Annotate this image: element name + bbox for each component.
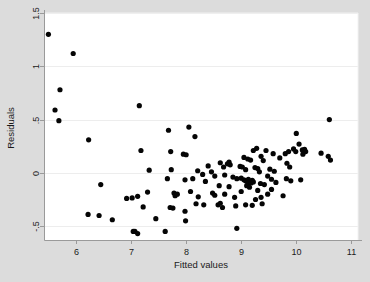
data-point <box>248 157 253 162</box>
data-point <box>153 216 158 221</box>
data-point <box>188 189 193 194</box>
data-point <box>135 231 140 236</box>
data-point <box>222 192 227 197</box>
data-point <box>300 152 305 157</box>
data-point <box>182 177 187 182</box>
data-point <box>169 167 174 172</box>
data-point <box>86 137 91 142</box>
x-tick-label-3: 9 <box>239 247 244 257</box>
data-point <box>192 134 197 139</box>
x-tick-label-2: 8 <box>184 247 189 257</box>
data-point <box>46 32 51 37</box>
y-tick-label-3: 0 <box>31 171 41 176</box>
x-axis-title: Fitted values <box>174 259 228 270</box>
data-point <box>203 179 208 184</box>
data-point <box>137 103 142 108</box>
data-point <box>175 192 180 197</box>
data-point <box>247 185 252 190</box>
data-point <box>145 189 150 194</box>
data-point <box>273 180 278 185</box>
data-point <box>182 209 187 214</box>
data-point <box>255 188 260 193</box>
data-point <box>234 176 239 181</box>
data-point <box>318 151 323 156</box>
data-point <box>253 197 258 202</box>
data-point <box>226 184 231 189</box>
data-point <box>327 117 332 122</box>
y-tick-label-2: .5 <box>31 117 41 125</box>
data-point <box>251 148 256 153</box>
data-point <box>141 204 146 209</box>
data-point <box>163 229 168 234</box>
data-point <box>57 87 62 92</box>
data-point <box>233 203 238 208</box>
data-point <box>262 182 267 187</box>
data-point <box>222 172 227 177</box>
data-point <box>220 205 225 210</box>
data-point <box>193 201 198 206</box>
data-point <box>135 194 140 199</box>
data-point <box>269 177 274 182</box>
y-axis-title: Residuals <box>5 107 16 149</box>
y-tick-label-4: -.5 <box>31 221 41 232</box>
data-point <box>184 152 189 157</box>
data-point <box>232 195 237 200</box>
data-point <box>243 167 248 172</box>
data-point <box>218 160 223 165</box>
data-point <box>272 169 277 174</box>
scatter-plot-canvas: 67891011 1.51.50-.5 Fitted values Residu… <box>0 0 370 282</box>
data-point <box>239 189 244 194</box>
data-point <box>209 169 214 174</box>
data-point <box>277 155 282 160</box>
data-point <box>138 148 143 153</box>
data-point <box>165 176 170 181</box>
data-point <box>195 168 200 173</box>
residual-scatter-plot-figure: 67891011 1.51.50-.5 Fitted values Residu… <box>0 0 370 282</box>
data-point <box>110 217 115 222</box>
x-tick-label-0: 6 <box>74 247 79 257</box>
data-point <box>183 218 188 223</box>
data-point <box>186 124 191 129</box>
data-point <box>217 183 222 188</box>
data-point <box>243 202 248 207</box>
data-point <box>147 168 152 173</box>
data-point <box>280 193 285 198</box>
data-point <box>98 182 103 187</box>
data-point <box>265 192 270 197</box>
x-tick-label-4: 10 <box>291 247 301 257</box>
data-point <box>267 167 272 172</box>
data-point <box>296 141 301 146</box>
data-point <box>271 151 276 156</box>
data-point <box>124 196 129 201</box>
data-point <box>212 173 217 178</box>
data-point <box>257 169 262 174</box>
data-point <box>294 131 299 136</box>
data-point <box>52 107 57 112</box>
data-point <box>228 162 233 167</box>
data-point <box>200 172 205 177</box>
data-point <box>196 194 201 199</box>
data-point <box>170 205 175 210</box>
data-point <box>260 201 265 206</box>
data-point <box>288 178 293 183</box>
data-point <box>287 164 292 169</box>
x-tick-label-1: 7 <box>129 247 134 257</box>
data-point <box>96 213 101 218</box>
data-point <box>261 158 266 163</box>
data-point <box>212 193 217 198</box>
data-point <box>190 176 195 181</box>
data-point <box>201 202 206 207</box>
data-point <box>71 51 76 56</box>
data-point <box>263 148 268 153</box>
data-point <box>269 187 274 192</box>
data-point <box>130 195 135 200</box>
y-tick-label-1: 1 <box>31 64 41 69</box>
data-point <box>206 163 211 168</box>
data-point <box>168 149 173 154</box>
data-point <box>250 203 255 208</box>
data-point <box>234 226 239 231</box>
x-tick-label-5: 11 <box>347 247 356 257</box>
data-point <box>56 118 61 123</box>
data-point <box>293 149 298 154</box>
data-point <box>286 149 291 154</box>
